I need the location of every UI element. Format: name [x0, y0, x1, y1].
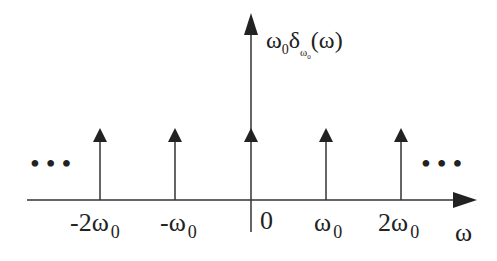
impulse-0: [244, 128, 258, 142]
y-axis-arrow-icon: [244, 13, 258, 35]
tick-label-neg1: -ω0: [160, 210, 197, 236]
impulse-neg2: [93, 128, 107, 200]
continuation-dots-left: •••: [30, 150, 77, 178]
tick-label-neg2: -2ω0: [70, 210, 120, 236]
plot-title: ω0δω0(ω): [266, 28, 343, 53]
axis-label-omega: ω: [455, 220, 472, 246]
x-axis-arrow-icon: [453, 192, 477, 208]
tick-label-0: 0: [260, 208, 273, 234]
impulse-neg1: [168, 128, 182, 200]
impulse-pos2: [394, 128, 408, 200]
tick-label-pos2: 2ω0: [378, 210, 419, 236]
impulse-pos1: [319, 128, 333, 200]
tick-label-pos1: ω0: [314, 210, 342, 236]
continuation-dots-right: •••: [421, 150, 468, 178]
